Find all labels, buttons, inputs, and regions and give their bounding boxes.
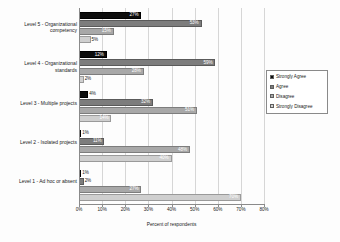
legend-label: Agree — [276, 84, 288, 89]
bar-value-label: 48% — [178, 148, 189, 153]
bar: 48% — [79, 146, 190, 153]
bar-value-label: 27% — [130, 13, 141, 18]
bar-value-label: 11% — [93, 139, 104, 144]
bar: 32% — [79, 99, 153, 106]
legend-swatch-icon — [270, 75, 274, 79]
x-tick-label: 60% — [213, 207, 222, 212]
x-tick-label: 0% — [76, 207, 83, 212]
bar-value-label: 70% — [229, 195, 240, 200]
bar: 40% — [79, 155, 172, 162]
bar: 27% — [79, 186, 141, 193]
bar-value-label: 4% — [87, 92, 95, 97]
bar-groups: 27%53%15%5%12%59%28%2%4%32%51%14%1%11%48… — [79, 8, 264, 205]
bar: 27% — [79, 12, 141, 19]
gridline — [264, 8, 265, 205]
bar: 70% — [79, 194, 241, 201]
bar-value-label: 32% — [141, 100, 152, 105]
category-label: Level 2 - Isolated projects — [4, 139, 77, 146]
bar-value-label: 5% — [90, 38, 98, 43]
y-axis-line — [79, 8, 80, 205]
bar: 5% — [79, 36, 91, 43]
x-tick-label: 50% — [190, 207, 199, 212]
x-axis-title: Percent of respondents — [79, 222, 264, 227]
x-tick-label: 80% — [259, 207, 268, 212]
bar: 59% — [79, 59, 215, 66]
legend-label: Disagree — [276, 94, 294, 99]
bar-value-label: 2% — [83, 77, 91, 82]
bar: 14% — [79, 115, 111, 122]
chart-canvas: Level 5 - Organizational competencyLevel… — [0, 0, 340, 242]
bar-value-label: 12% — [95, 53, 106, 58]
chart-legend: Strongly AgreeAgreeDisagreeStrongly Disa… — [266, 70, 328, 114]
bar-value-label: 40% — [160, 156, 171, 161]
legend-item[interactable]: Disagree — [270, 94, 324, 99]
legend-swatch-icon — [270, 85, 274, 89]
bar-group: 27%53%15%5% — [79, 12, 264, 44]
category-label: Level 4 - Organizational standards — [4, 60, 77, 73]
legend-swatch-icon — [270, 94, 274, 98]
category-label: Level 1 - Ad hoc or absent — [4, 178, 77, 185]
bar-value-label: 51% — [185, 108, 196, 113]
bar: 15% — [79, 28, 114, 35]
category-axis-labels: Level 5 - Organizational competencyLevel… — [4, 8, 77, 205]
x-tick-label: 40% — [167, 207, 176, 212]
bar-group: 4%32%51%14% — [79, 91, 264, 123]
bar: 11% — [79, 138, 104, 145]
x-tick-label: 70% — [236, 207, 245, 212]
x-tick-label: 20% — [121, 207, 130, 212]
category-label: Level 3 - Multiple projects — [4, 100, 77, 107]
bar: 4% — [79, 91, 88, 98]
category-label: Level 5 - Organizational competency — [4, 21, 77, 34]
bar-value-label: 15% — [102, 29, 113, 34]
legend-item[interactable]: Strongly Agree — [270, 74, 324, 79]
x-axis-ticks: 0%10%20%30%40%50%60%70%80% — [79, 207, 264, 217]
bar-value-label: 1% — [80, 171, 88, 176]
bar: 28% — [79, 68, 144, 75]
x-tick-label: 30% — [144, 207, 153, 212]
bar-value-label: 28% — [132, 69, 143, 74]
bar-group: 12%59%28%2% — [79, 51, 264, 83]
bar: 12% — [79, 51, 107, 58]
bar-value-label: 1% — [80, 131, 88, 136]
legend-swatch-icon — [270, 104, 274, 108]
bar: 53% — [79, 20, 202, 27]
plot-area: 27%53%15%5%12%59%28%2%4%32%51%14%1%11%48… — [79, 8, 264, 205]
legend-label: Strongly Agree — [276, 74, 306, 79]
x-axis-line — [79, 204, 264, 205]
bar-group: 1%2%27%70% — [79, 170, 264, 202]
bar-value-label: 53% — [190, 21, 201, 26]
bar: 51% — [79, 107, 197, 114]
legend-item[interactable]: Agree — [270, 84, 324, 89]
legend-label: Strongly Disagree — [276, 104, 313, 109]
bar-value-label: 27% — [130, 187, 141, 192]
bar-value-label: 14% — [99, 116, 110, 121]
bar-value-label: 2% — [83, 179, 91, 184]
x-tick-label: 10% — [98, 207, 107, 212]
legend-item[interactable]: Strongly Disagree — [270, 104, 324, 109]
bar-value-label: 59% — [204, 61, 215, 66]
bar-group: 1%11%48%40% — [79, 130, 264, 162]
